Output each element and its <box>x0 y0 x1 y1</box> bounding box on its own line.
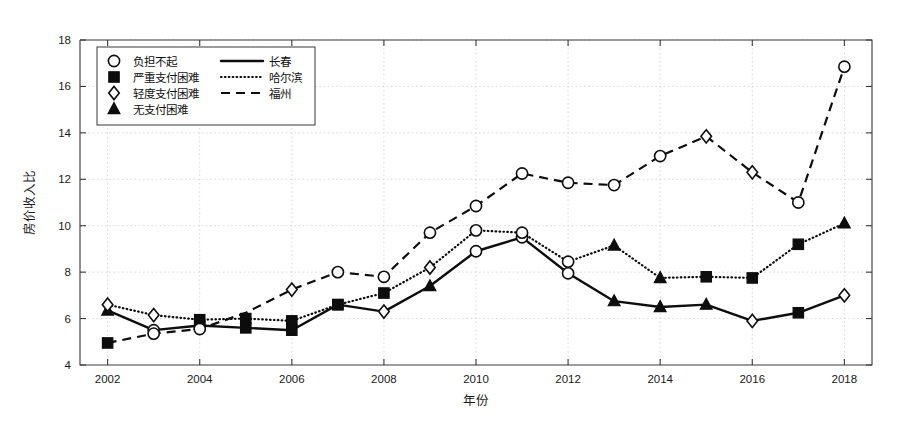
marker-diamond <box>287 283 298 296</box>
marker-circle <box>148 328 159 339</box>
marker-square <box>287 316 297 326</box>
x-tick-label: 2018 <box>832 373 858 385</box>
marker-square <box>333 299 343 309</box>
legend-marker-label: 严重支付困难 <box>133 71 199 85</box>
marker-triangle <box>608 295 620 306</box>
x-tick-label: 2002 <box>95 373 121 385</box>
y-tick-label: 14 <box>58 127 71 139</box>
x-tick-label: 2016 <box>739 373 765 385</box>
marker-circle <box>793 197 804 208</box>
marker-triangle <box>608 239 620 250</box>
y-axis-title: 房价收入比 <box>22 170 37 235</box>
marker-circle <box>562 177 573 188</box>
x-tick-label: 2006 <box>279 373 305 385</box>
marker-diamond <box>102 298 113 311</box>
x-tick-label: 2004 <box>187 373 213 385</box>
marker-circle <box>470 246 481 257</box>
marker-square <box>379 288 389 298</box>
marker-circle <box>839 61 850 72</box>
marker-circle <box>516 168 527 179</box>
marker-diamond <box>747 166 758 179</box>
y-tick-label: 18 <box>58 34 71 46</box>
y-tick-label: 12 <box>58 173 71 185</box>
x-tick-label: 2010 <box>463 373 489 385</box>
marker-square <box>793 308 803 318</box>
x-tick-label: 2012 <box>555 373 581 385</box>
marker-square <box>747 273 757 283</box>
marker-circle <box>562 256 573 267</box>
marker-square <box>109 72 119 82</box>
legend-marker-label: 轻度支付困难 <box>133 87 199 101</box>
line-chart: 4681012141618200220042006200820102012201… <box>0 0 907 423</box>
legend-line-label: 长春 <box>269 55 292 69</box>
marker-square <box>793 239 803 249</box>
legend-line-label: 哈尔滨 <box>269 71 303 85</box>
marker-diamond <box>379 305 390 318</box>
marker-diamond <box>747 314 758 327</box>
chart-legend: 负担不起严重支付困难轻度支付困难无支付困难长春哈尔滨福州 <box>97 47 315 125</box>
marker-triangle <box>424 280 436 291</box>
marker-circle <box>470 225 481 236</box>
marker-square <box>102 338 112 348</box>
marker-diamond <box>839 289 850 302</box>
y-tick-label: 16 <box>58 80 71 92</box>
legend-line-label: 福州 <box>269 87 291 101</box>
y-tick-label: 10 <box>58 220 71 232</box>
x-tick-label: 2014 <box>647 373 673 385</box>
marker-circle <box>470 200 481 211</box>
marker-circle <box>424 227 435 238</box>
marker-circle <box>655 150 666 161</box>
chart-container: 4681012141618200220042006200820102012201… <box>0 0 907 423</box>
y-tick-label: 8 <box>65 266 71 278</box>
legend-marker-label: 无支付困难 <box>133 103 188 117</box>
marker-circle <box>378 271 389 282</box>
marker-diamond <box>701 130 712 143</box>
marker-circle <box>108 55 119 66</box>
marker-triangle <box>654 272 666 283</box>
y-tick-label: 4 <box>65 359 72 371</box>
marker-circle <box>194 323 205 334</box>
legend-marker-label: 负担不起 <box>133 55 178 69</box>
marker-triangle <box>838 217 850 228</box>
marker-circle <box>609 179 620 190</box>
y-tick-label: 6 <box>65 313 71 325</box>
marker-diamond <box>148 308 159 321</box>
marker-circle <box>332 267 343 278</box>
x-tick-label: 2008 <box>371 373 397 385</box>
marker-circle <box>562 268 573 279</box>
marker-circle <box>516 227 527 238</box>
x-axis-title: 年份 <box>463 393 489 408</box>
marker-square <box>701 272 711 282</box>
